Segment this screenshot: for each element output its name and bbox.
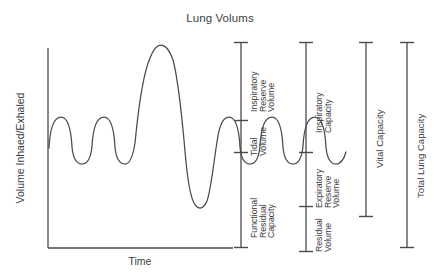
label-inspiratory-capacity-line2: Capacity <box>324 92 333 133</box>
label-vital-capacity: Vital Capacity <box>375 110 385 168</box>
label-residual-volume: Residual Volume <box>315 218 332 252</box>
label-vital-capacity-text: Vital Capacity <box>375 110 385 168</box>
bracket-total-lung-capacity <box>400 42 414 248</box>
label-inspiratory-reserve-volume: Inspiratory Reserve Volume <box>250 71 276 112</box>
spirogram-trace <box>49 45 346 208</box>
lung-volumes-diagram: Lung Volums Volume Inhaed/Exhaled Time <box>0 0 440 279</box>
bracket-vital-capacity <box>359 42 373 217</box>
bracket-capacities <box>299 42 313 252</box>
label-functional-residual-capacity: Functional Residual Capacity <box>250 198 276 238</box>
bracket-volumes <box>234 42 248 248</box>
label-total-lung-capacity: Total Lung Capacity <box>416 114 426 198</box>
label-irv-line3: Volume <box>267 71 276 112</box>
label-frc-line3: Capacity <box>267 198 276 238</box>
label-erv-line3: Volume <box>332 169 341 208</box>
label-residual-volume-line2: Volume <box>324 218 333 252</box>
label-inspiratory-capacity: Inspiratory Capacity <box>315 92 332 133</box>
label-tidal-volume-line2: Volume <box>259 127 268 156</box>
label-total-lung-capacity-text: Total Lung Capacity <box>416 114 426 198</box>
label-expiratory-reserve-volume: Expiratory Reserve Volume <box>315 169 341 208</box>
label-tidal-volume: Tidal Volume <box>250 127 267 156</box>
